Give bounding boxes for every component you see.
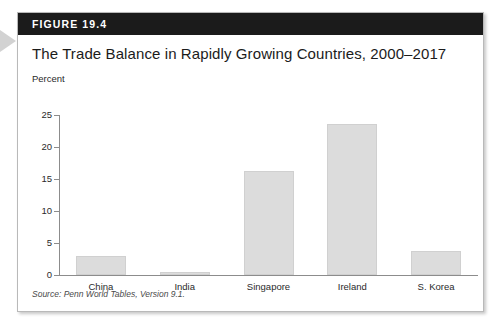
y-tick-label: 15 bbox=[41, 173, 52, 184]
y-tick-mark bbox=[54, 243, 59, 244]
plot-area: 0510152025 ChinaIndiaSingaporeIrelandS. … bbox=[59, 115, 478, 275]
bar-china bbox=[76, 256, 126, 275]
source-note: Source: Penn World Tables, Version 9.1. bbox=[32, 289, 185, 299]
y-tick-mark bbox=[54, 275, 59, 276]
x-tick-label: Ireland bbox=[310, 281, 394, 292]
page-title: The Trade Balance in Rapidly Growing Cou… bbox=[32, 45, 471, 62]
y-tick-mark bbox=[54, 179, 59, 180]
y-axis-line bbox=[59, 115, 60, 275]
y-tick-label: 20 bbox=[41, 141, 52, 152]
figure-card: FIGURE 19.4 The Trade Balance in Rapidly… bbox=[17, 12, 484, 312]
y-tick-mark bbox=[54, 115, 59, 116]
y-tick-mark bbox=[54, 147, 59, 148]
triangle-right-icon bbox=[0, 30, 16, 52]
bar-s-korea bbox=[411, 251, 461, 275]
y-tick-mark bbox=[54, 211, 59, 212]
chart-region: Percent 0510152025 ChinaIndiaSingaporeIr… bbox=[18, 73, 485, 288]
bar-singapore bbox=[244, 171, 294, 275]
x-axis-line bbox=[59, 275, 478, 276]
y-tick-label: 25 bbox=[41, 109, 52, 120]
y-tick-label: 0 bbox=[47, 269, 52, 280]
figure-number-label: FIGURE 19.4 bbox=[18, 18, 107, 30]
y-axis-title: Percent bbox=[32, 73, 65, 84]
bar-ireland bbox=[327, 124, 377, 275]
bar-india bbox=[160, 272, 210, 275]
x-tick-label: S. Korea bbox=[394, 281, 478, 292]
y-tick-label: 5 bbox=[47, 237, 52, 248]
figure-header-bar: FIGURE 19.4 bbox=[18, 13, 483, 35]
x-tick-label: Singapore bbox=[227, 281, 311, 292]
y-tick-label: 10 bbox=[41, 205, 52, 216]
